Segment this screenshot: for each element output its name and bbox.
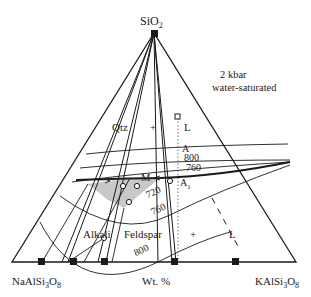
point-label-m: M bbox=[141, 172, 151, 183]
vertex-label-sio2: SiO2 bbox=[140, 14, 163, 30]
title-condition: water-saturated bbox=[212, 82, 277, 93]
isotherm-760-bottom: 760 bbox=[149, 201, 167, 217]
vertex-label-albite: NaAlSi3O8 bbox=[12, 275, 61, 290]
field-label-plus-2: + bbox=[190, 228, 196, 240]
axis-label-wt: Wt. % bbox=[142, 275, 170, 287]
isotherm-760-top: 760 bbox=[186, 162, 201, 173]
dashed-line bbox=[212, 198, 240, 250]
field-label-l-2: L bbox=[229, 228, 236, 240]
field-label-plus: + bbox=[150, 121, 156, 133]
isotherm-800-bottom: 800 bbox=[132, 242, 150, 258]
title-pressure: 2 kbar bbox=[220, 69, 247, 80]
field-label-feldspar: Feldspar bbox=[124, 228, 162, 240]
point-label-a1: A1 bbox=[180, 177, 191, 191]
field-label-l: L bbox=[184, 121, 191, 133]
ternary-diagram: SiO2 2 kbar water-saturated Qtz + L A 80… bbox=[0, 0, 311, 297]
field-label-alkali: Alkali bbox=[83, 228, 111, 240]
field-label-qtz: Qtz bbox=[112, 121, 128, 133]
vertex-label-orthoclase: KAlSi3O8 bbox=[255, 275, 299, 290]
